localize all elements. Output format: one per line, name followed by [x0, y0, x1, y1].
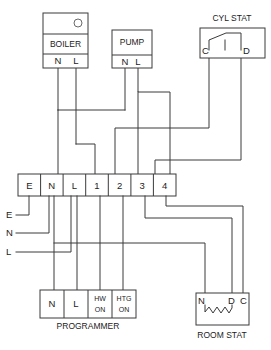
programmer-terminal-htg-line1: HTG — [117, 295, 132, 302]
terminal-e: E — [26, 180, 32, 191]
room-stat-unit: N D C ROOM STAT — [196, 293, 249, 340]
programmer-terminal-htg-line2: ON — [119, 306, 130, 313]
supply-label-n: N — [6, 227, 13, 238]
room-stat-title: ROOM STAT — [197, 330, 246, 340]
programmer-title: PROGRAMMER — [57, 321, 120, 331]
wire-supply-e — [16, 196, 29, 215]
terminal-4: 4 — [162, 180, 167, 191]
terminal-strip: E N L 1 2 3 4 — [18, 174, 176, 196]
room-stat-terminal-d: D — [228, 295, 235, 306]
supply-label-l: L — [6, 246, 11, 257]
wire-supply-l — [16, 196, 71, 252]
programmer-unit: N L HW ON HTG ON PROGRAMMER — [40, 290, 136, 331]
room-stat-terminal-n: N — [198, 295, 205, 306]
cyl-stat-terminal-d: D — [243, 45, 250, 56]
pump-terminal-n: N — [122, 56, 129, 67]
programmer-terminal-l: L — [73, 298, 78, 309]
pump-label: PUMP — [120, 37, 145, 47]
circle-indicator-icon — [74, 19, 82, 27]
cyl-stat-terminal-c: C — [202, 45, 209, 56]
wire-terminal-3-to-roomstat-d — [145, 196, 232, 293]
mains-supply-group: E N L — [6, 196, 71, 257]
pump-terminal-l: L — [135, 56, 140, 67]
programmer-terminal-hw-line1: HW — [94, 295, 106, 302]
boiler-unit: BOILER N L — [43, 13, 88, 68]
cyl-stat-title: CYL STAT — [212, 13, 251, 23]
programmer-terminal-n: N — [49, 298, 56, 309]
pump-box — [112, 30, 152, 68]
wire-boiler-l-to-terminal1 — [76, 144, 95, 174]
terminal-l: L — [72, 180, 77, 191]
pump-unit: PUMP N L — [112, 30, 152, 68]
room-stat-terminal-c: C — [240, 295, 247, 306]
central-heating-wiring-diagram: BOILER N L PUMP N L CYL STAT C D — [0, 0, 271, 350]
terminal-3: 3 — [140, 180, 145, 191]
supply-label-e: E — [6, 209, 12, 220]
terminal-1: 1 — [94, 180, 99, 191]
terminal-2: 2 — [117, 180, 122, 191]
wire-cylstat-d-run — [155, 58, 241, 174]
boiler-label: BOILER — [50, 39, 81, 49]
programmer-terminal-hw-line2: ON — [95, 306, 106, 313]
terminal-n: N — [48, 180, 55, 191]
boiler-terminal-l: L — [73, 55, 78, 66]
wire-pump-l-run — [138, 68, 170, 174]
cylinder-stat-unit: CYL STAT C D — [200, 13, 265, 58]
wire-cylstat-c-run — [115, 58, 209, 174]
boiler-terminal-n: N — [55, 55, 62, 66]
wiring-diagram-canvas: BOILER N L PUMP N L CYL STAT C D — [0, 0, 271, 350]
